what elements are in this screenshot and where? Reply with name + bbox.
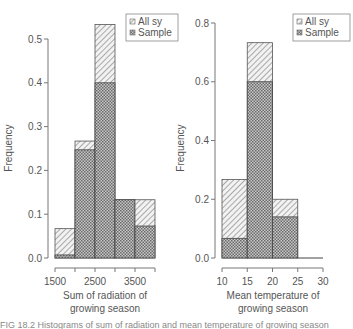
- x-tick-label: 15: [242, 276, 254, 287]
- x-axis-label: Sum of radiation of: [63, 290, 147, 301]
- x-tick-label: 2500: [84, 276, 107, 287]
- legend-label: All sy: [138, 16, 162, 27]
- x-axis-label: growing season: [70, 303, 140, 314]
- figure: 0.00.10.20.30.40.5Frequency150025003500S…: [0, 0, 353, 329]
- y-tick-label: 0.4: [28, 77, 42, 88]
- y-tick-label: 0.8: [195, 18, 209, 29]
- histogram-figure: 0.00.10.20.30.40.5Frequency150025003500S…: [0, 0, 353, 329]
- x-tick-label: 3500: [124, 276, 147, 287]
- x-axis: 1015202530Mean temperature ofgrowing sea…: [216, 268, 329, 314]
- temperature-histogram: 0.00.20.40.60.8Frequency1015202530Mean t…: [175, 14, 350, 314]
- x-axis-label: Mean temperature of: [227, 290, 320, 301]
- x-axis-label: growing season: [238, 303, 308, 314]
- y-tick-label: 0.3: [28, 121, 42, 132]
- bar-sample: [135, 226, 155, 258]
- y-tick-label: 0.0: [195, 253, 209, 264]
- bar-sample: [115, 200, 135, 258]
- x-tick-label: 10: [216, 276, 228, 287]
- y-axis: 0.00.20.40.60.8Frequency: [175, 18, 215, 264]
- legend-swatch-all-sy: [297, 19, 302, 24]
- radiation-histogram: 0.00.10.20.30.40.5Frequency150025003500S…: [3, 14, 178, 314]
- legend-label: All sy: [305, 16, 329, 27]
- y-axis-label: Frequency: [3, 124, 14, 171]
- bar-sample: [247, 82, 272, 258]
- bar-all-sy: [55, 229, 75, 258]
- y-axis-label: Frequency: [175, 124, 186, 171]
- legend-swatch-sample: [130, 30, 135, 35]
- x-tick-label: 20: [267, 276, 279, 287]
- y-tick-label: 0.2: [28, 165, 42, 176]
- x-tick-label: 1500: [44, 276, 67, 287]
- bar-sample: [273, 217, 298, 258]
- bar-sample: [95, 83, 115, 258]
- y-tick-label: 0.1: [28, 209, 42, 220]
- legend-label: Sample: [305, 27, 339, 38]
- y-axis: 0.00.10.20.30.40.5Frequency: [3, 34, 48, 264]
- bar-sample: [222, 238, 247, 258]
- legend-swatch-all-sy: [130, 19, 135, 24]
- x-tick-label: 25: [292, 276, 304, 287]
- legend: All sySample: [126, 14, 178, 41]
- y-tick-label: 0.6: [195, 76, 209, 87]
- figure-caption: FIG 18.2 Histograms of sum of radiation …: [0, 320, 353, 329]
- y-tick-label: 0.2: [195, 194, 209, 205]
- x-tick-label: 30: [317, 276, 329, 287]
- x-axis: 150025003500Sum of radiation ofgrowing s…: [44, 268, 155, 314]
- legend: All sySample: [293, 14, 350, 41]
- y-tick-label: 0.4: [195, 135, 209, 146]
- y-tick-label: 0.0: [28, 253, 42, 264]
- legend-label: Sample: [138, 27, 172, 38]
- bar-sample: [75, 150, 95, 258]
- bar-sample: [55, 255, 75, 258]
- legend-swatch-sample: [297, 30, 302, 35]
- y-tick-label: 0.5: [28, 34, 42, 45]
